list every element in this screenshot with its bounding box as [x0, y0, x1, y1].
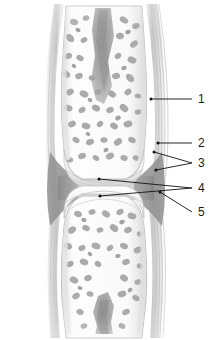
label-number-3: 3 [198, 157, 205, 169]
label-number-1: 1 [198, 93, 205, 105]
label-number-2: 2 [198, 137, 205, 149]
joint-illustration [0, 0, 222, 340]
joint-anatomy-figure: 1 2 3 4 5 [0, 0, 222, 340]
label-number-4: 4 [198, 182, 205, 194]
label-number-5: 5 [198, 206, 205, 218]
lower-epiphysis [61, 186, 146, 340]
upper-epiphysis [60, 2, 147, 187]
